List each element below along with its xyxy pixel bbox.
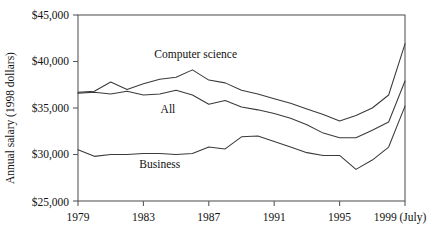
y-tick-label: $45,000 <box>32 9 70 22</box>
x-tick-label: 1995 <box>328 211 351 223</box>
y-tick-label: $30,000 <box>32 148 70 161</box>
y-axis-ticks <box>73 15 78 201</box>
x-axis-ticks <box>78 201 405 206</box>
line-chart: Annual salary (1998 dollars) $45,000 $40… <box>0 0 441 248</box>
y-axis-title-text: Annual salary (1998 dollars) <box>4 52 17 184</box>
x-tick-label: 1983 <box>132 211 155 223</box>
series-layer <box>78 44 405 170</box>
x-axis-tick-labels: 1979 1983 1987 1991 1995 1999 (July) <box>67 211 427 224</box>
series-line <box>78 44 405 121</box>
plot-frame <box>78 15 405 201</box>
x-tick-label: 1991 <box>263 211 286 223</box>
y-tick-label: $40,000 <box>32 55 70 68</box>
series-label: Business <box>139 158 180 170</box>
y-tick-label: $35,000 <box>32 102 70 115</box>
series-label-layer: Computer scienceAllBusiness <box>139 48 237 170</box>
x-tick-label: 1999 (July) <box>374 211 427 224</box>
y-axis-title: Annual salary (1998 dollars) <box>4 52 17 184</box>
x-tick-label: 1979 <box>67 211 90 223</box>
x-tick-label: 1987 <box>197 211 220 223</box>
series-label: All <box>161 103 176 115</box>
y-tick-label: $25,000 <box>32 196 70 209</box>
chart-page: Annual salary (1998 dollars) $45,000 $40… <box>0 0 441 248</box>
y-axis-tick-labels: $45,000 $40,000 $35,000 $30,000 $25,000 <box>32 9 70 209</box>
series-label: Computer science <box>154 48 237 61</box>
